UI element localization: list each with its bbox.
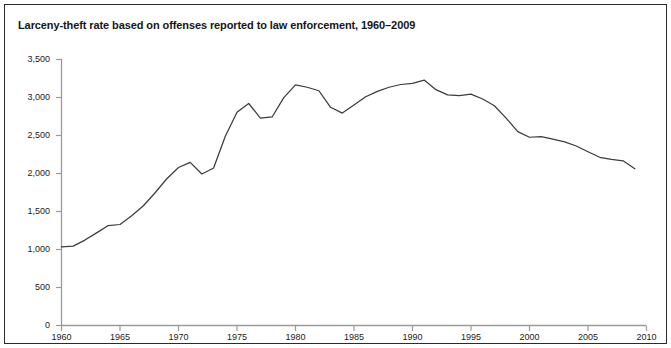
x-tick-label: 1960 [42,332,82,342]
y-tick-label: 2,000 [10,168,50,178]
y-tick-label: 3,500 [10,54,50,64]
y-tick-label: 1,000 [10,244,50,254]
y-tick-label: 1,500 [10,206,50,216]
x-tick-label: 1965 [100,332,140,342]
x-tick-label: 1995 [451,332,491,342]
x-tick-label: 1980 [276,332,316,342]
x-tick-label: 1990 [393,332,433,342]
chart-frame: Larceny-theft rate based on offenses rep… [4,4,667,344]
y-tick-label: 0 [10,320,50,330]
y-tick-label: 2,500 [10,130,50,140]
chart-title: Larceny-theft rate based on offenses rep… [18,19,415,31]
x-tick-label: 2005 [568,332,608,342]
x-tick-label: 1970 [159,332,199,342]
chart-page: Larceny-theft rate based on offenses rep… [0,0,671,348]
x-tick-label: 2010 [627,332,667,342]
y-tick-label: 3,000 [10,92,50,102]
x-tick-label: 2000 [510,332,550,342]
x-tick-label: 1975 [217,332,257,342]
x-tick-label: 1985 [334,332,374,342]
y-tick-label: 500 [10,282,50,292]
